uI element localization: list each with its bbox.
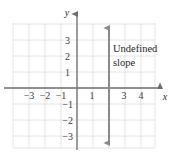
x-tick-label-4: 4 (139, 90, 144, 101)
y-tick-label-neg2: −2 (62, 115, 73, 126)
x-tick-label-1: 1 (90, 90, 95, 101)
x-axis-label: x (162, 91, 168, 102)
figure-background (0, 0, 174, 157)
y-tick-label-neg1: −1 (62, 99, 73, 110)
x-tick-label-neg2: −2 (40, 90, 51, 101)
y-axis-label: y (64, 7, 70, 18)
coordinate-plane-svg: y x −3 −2 −1 1 3 4 3 2 1 −1 −2 −3 Undefi… (0, 0, 174, 157)
graph-figure: y x −3 −2 −1 1 3 4 3 2 1 −1 −2 −3 Undefi… (0, 0, 174, 157)
y-tick-label-3: 3 (65, 35, 70, 46)
y-tick-label-1: 1 (65, 67, 70, 78)
annotation-line-2: slope (113, 57, 136, 68)
x-tick-label-neg3: −3 (24, 90, 35, 101)
x-tick-label-3: 3 (122, 90, 127, 101)
y-tick-label-2: 2 (65, 51, 70, 62)
annotation-line-1: Undefined (113, 43, 158, 54)
y-tick-label-neg3: −3 (62, 131, 73, 142)
